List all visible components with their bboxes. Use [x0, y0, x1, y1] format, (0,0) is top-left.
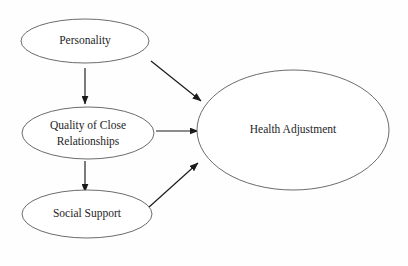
node-health-adjustment-label: Health Adjustment — [250, 123, 337, 136]
node-quality-of-close-relationships-label-line1: Quality of Close — [50, 119, 126, 132]
path-diagram: Personality Quality of Close Relationshi… — [0, 0, 408, 266]
node-personality[interactable]: Personality — [21, 19, 149, 63]
diagram-canvas: Personality Quality of Close Relationshi… — [0, 0, 408, 266]
edge-social-support-to-health-adjustment — [148, 163, 198, 208]
edge-personality-to-health-adjustment — [151, 61, 201, 101]
node-quality-of-close-relationships[interactable]: Quality of Close Relationships — [22, 107, 154, 159]
node-personality-label: Personality — [59, 34, 111, 47]
node-social-support-label: Social Support — [53, 207, 122, 220]
node-health-adjustment[interactable]: Health Adjustment — [197, 70, 389, 190]
node-quality-of-close-relationships-label-line2: Relationships — [57, 135, 120, 148]
node-social-support[interactable]: Social Support — [22, 190, 152, 238]
node-quality-of-close-relationships-shape[interactable] — [22, 107, 154, 159]
